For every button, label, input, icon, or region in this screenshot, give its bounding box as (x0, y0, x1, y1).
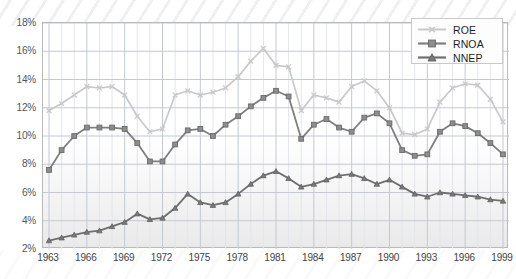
x-axis-tick-label: 1963 (37, 252, 58, 263)
x-axis-tick-label: 1990 (378, 252, 399, 263)
x-axis-tick-label: 1975 (189, 252, 210, 263)
chart-legend: ROE RNOA NNEP (411, 18, 503, 64)
legend-item-roe[interactable]: ROE (417, 23, 497, 36)
chart-container: 2%4%6%8%10%12%14%16%18% 1963196619691972… (0, 0, 516, 279)
legend-label-rnoa: RNOA (453, 38, 484, 50)
legend-label-roe: ROE (453, 24, 476, 36)
legend-item-rnoa[interactable]: RNOA (417, 37, 497, 50)
x-axis-tick-label: 1999 (491, 252, 512, 263)
x-axis-tick-label: 1966 (75, 252, 96, 263)
x-axis-tick-label: 1972 (151, 252, 172, 263)
legend-item-nnep[interactable]: NNEP (417, 51, 497, 64)
x-axis-tick-label: 1978 (226, 252, 247, 263)
legend-label-nnep: NNEP (453, 52, 483, 64)
legend-swatch-rnoa (417, 38, 447, 49)
x-axis-tick-label: 1984 (302, 252, 323, 263)
x-axis-tick-label: 1996 (453, 252, 474, 263)
legend-swatch-nnep (417, 52, 447, 63)
x-axis-tick-label: 1993 (416, 252, 437, 263)
x-axis-tick-label: 1969 (113, 252, 134, 263)
legend-swatch-roe (417, 24, 447, 35)
x-axis-tick-label: 1981 (264, 252, 285, 263)
x-axis-tick-label: 1987 (340, 252, 361, 263)
